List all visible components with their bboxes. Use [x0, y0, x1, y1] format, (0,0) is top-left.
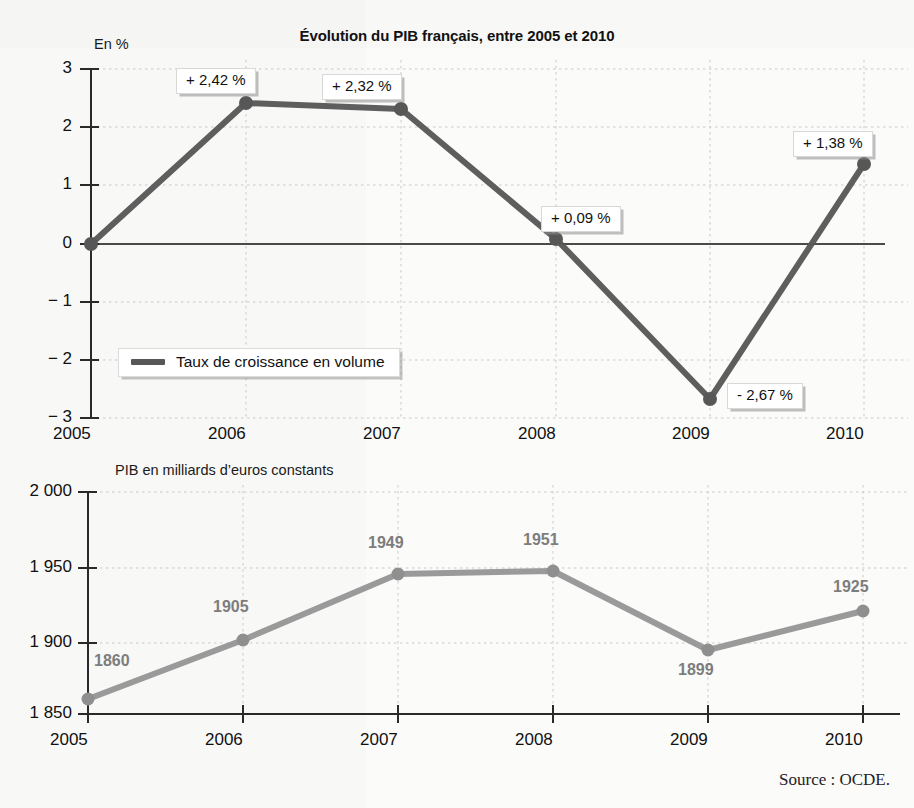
callout-2007-growth: + 2,32 %	[322, 74, 402, 100]
top-chart-legend: Taux de croissance en volume	[118, 348, 400, 377]
bottom-chart-ytick-1900: 1 900	[0, 632, 72, 652]
top-chart-xtick-2005: 2005	[53, 424, 91, 444]
point-label-2006-gdp: 1905	[213, 598, 249, 616]
top-chart-ytick-2: 2	[40, 116, 72, 136]
point-label-2010-gdp: 1925	[833, 578, 869, 596]
bottom-chart-ytick-1950: 1 950	[0, 557, 72, 577]
callout-2010-growth: + 1,38 %	[793, 131, 873, 157]
point-label-2008-gdp: 1951	[523, 531, 559, 549]
bottom-chart-xtick-2006: 2006	[205, 730, 243, 750]
bottom-chart-series-gdp	[82, 565, 870, 706]
source-note: Source : OCDE.	[779, 770, 890, 790]
top-chart-ytick-0: 0	[40, 233, 72, 253]
top-chart-ytick-1: 1	[40, 174, 72, 194]
top-chart-xtick-2008: 2008	[518, 424, 556, 444]
figure-gdp-france: Évolution du PIB français, entre 2005 et…	[0, 0, 914, 808]
callout-2008-growth: + 0,09 %	[541, 206, 621, 232]
legend-label-growth: Taux de croissance en volume	[176, 353, 385, 371]
bottom-chart-ytick-1850: 1 850	[0, 703, 72, 723]
point-label-2009-gdp: 1899	[678, 661, 714, 679]
bottom-chart-xtick-2010: 2010	[825, 730, 863, 750]
bottom-chart-xtick-2007: 2007	[360, 730, 398, 750]
bottom-chart-xtick-2005: 2005	[50, 730, 88, 750]
top-chart-xtick-2006: 2006	[208, 424, 246, 444]
top-chart-xtick-2007: 2007	[363, 424, 401, 444]
point-label-2007-gdp: 1949	[368, 534, 404, 552]
top-chart-ytick-neg2: − 2	[24, 349, 72, 369]
point-label-2005-gdp: 1860	[94, 652, 130, 670]
bottom-chart-axes	[78, 492, 900, 723]
bottom-chart-grid	[88, 485, 908, 714]
top-chart-ytick-neg1: − 1	[24, 291, 72, 311]
top-chart-xtick-2009: 2009	[672, 424, 710, 444]
callout-2009-growth: - 2,67 %	[727, 383, 803, 409]
top-chart-ytick-3: 3	[40, 58, 72, 78]
bottom-chart-xtick-2009: 2009	[670, 730, 708, 750]
bottom-chart-xtick-2008: 2008	[515, 730, 553, 750]
bottom-chart-ytick-2000: 2 000	[0, 481, 72, 501]
top-chart-xtick-2010: 2010	[826, 424, 864, 444]
legend-line-swatch	[131, 359, 165, 365]
callout-2006-growth: + 2,42 %	[176, 68, 256, 94]
